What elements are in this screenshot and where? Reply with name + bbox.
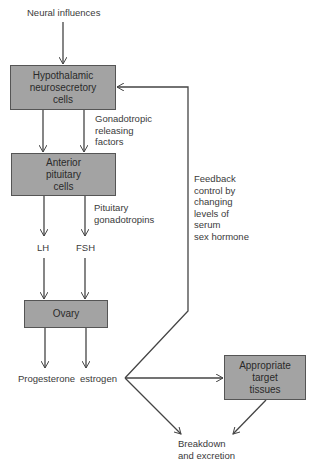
ovary-label: Ovary — [53, 308, 80, 320]
breakdown-label: Breakdown and excretion — [178, 438, 235, 461]
hypothalamic-box: Hypothalamic neurosecretory cells — [10, 65, 116, 110]
gonadotropins-label: Pituitary gonadotropins — [94, 202, 154, 225]
pituitary-label: Anterior pituitary cells — [46, 157, 81, 193]
progesterone-label: Progesterone — [18, 373, 75, 385]
ovary-box: Ovary — [24, 300, 108, 328]
feedback-label: Feedback control by changing levels of s… — [194, 173, 249, 242]
hypothalamic-label: Hypothalamic neurosecretory cells — [30, 70, 97, 106]
releasing-factors-label: Gonadotropic releasing factors — [95, 113, 152, 148]
target-tissues-label: Appropriate target tissues — [239, 360, 291, 396]
pituitary-box: Anterior pituitary cells — [11, 153, 116, 196]
neural-influences-label: Neural influences — [27, 7, 100, 19]
target-tissues-box: Appropriate target tissues — [224, 355, 306, 400]
lh-label: LH — [37, 242, 49, 254]
estrogen-label: estrogen — [80, 373, 117, 385]
fsh-label: FSH — [76, 242, 95, 254]
